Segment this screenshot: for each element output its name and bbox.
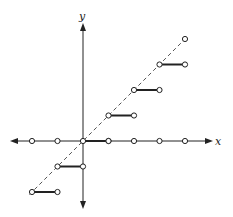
x-axis-point bbox=[106, 138, 111, 143]
step-start-point bbox=[55, 164, 60, 169]
step-end-point bbox=[157, 87, 162, 92]
x-axis-point bbox=[55, 138, 60, 143]
y-axis-down-arrow-icon bbox=[80, 201, 86, 209]
step-start-point bbox=[29, 189, 34, 194]
x-axis-point bbox=[29, 138, 34, 143]
step-start-point bbox=[157, 62, 162, 67]
axes: x y bbox=[10, 10, 222, 209]
x-axis-left-arrow-icon bbox=[10, 138, 18, 144]
step-end-point bbox=[55, 189, 60, 194]
step-start-point bbox=[80, 138, 85, 143]
step-start-point bbox=[106, 113, 111, 118]
x-axis-point bbox=[131, 138, 136, 143]
x-axis-point bbox=[157, 138, 162, 143]
step-end-point bbox=[80, 164, 85, 169]
y-axis-up-arrow-icon bbox=[80, 23, 86, 31]
x-axis-right-arrow-icon bbox=[205, 138, 213, 144]
step-segments bbox=[32, 65, 185, 193]
y-axis-label: y bbox=[78, 10, 86, 23]
dashed-line-end-point bbox=[182, 36, 187, 41]
step-end-point bbox=[182, 62, 187, 67]
step-start-point bbox=[131, 87, 136, 92]
x-axis-label: x bbox=[215, 135, 222, 148]
step-end-point bbox=[131, 113, 136, 118]
diagram-canvas: x y bbox=[0, 0, 233, 217]
x-axis-point bbox=[182, 138, 187, 143]
